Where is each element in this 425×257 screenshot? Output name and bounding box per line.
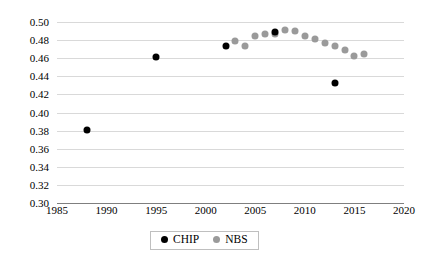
legend-item-chip[interactable]: CHIP [161, 234, 199, 246]
data-point-nbs [242, 43, 249, 50]
data-point-nbs [282, 27, 289, 34]
data-point-chip [331, 79, 338, 86]
gridline [57, 167, 404, 168]
data-point-nbs [301, 33, 308, 40]
y-tick-label: 0.46 [30, 53, 49, 64]
y-tick-label: 0.36 [30, 144, 49, 155]
x-tick-label: 2005 [244, 205, 266, 216]
data-point-nbs [311, 36, 318, 43]
data-point-nbs [351, 53, 358, 60]
gridline [57, 40, 404, 41]
data-point-chip [222, 42, 229, 49]
legend-marker-icon [213, 236, 220, 243]
scatter-chart: 0.300.320.340.360.380.400.420.440.460.48… [0, 0, 425, 257]
legend-label: CHIP [173, 234, 199, 246]
data-point-nbs [321, 39, 328, 46]
x-tick-label: 2010 [294, 205, 316, 216]
legend-item-nbs[interactable]: NBS [213, 234, 247, 246]
data-point-chip [153, 54, 160, 61]
y-tick-label: 0.32 [30, 180, 49, 191]
data-point-nbs [291, 28, 298, 35]
y-tick-label: 0.48 [30, 35, 49, 46]
y-tick-label: 0.34 [30, 162, 49, 173]
data-point-nbs [331, 42, 338, 49]
y-tick-label: 0.50 [30, 17, 49, 28]
x-tick-label: 1985 [46, 205, 68, 216]
x-axis-tick-labels: 19851990199520002005201020152020 [0, 205, 425, 223]
gridline [57, 185, 404, 186]
data-point-chip [83, 126, 90, 133]
gridline [57, 113, 404, 114]
y-tick-label: 0.40 [30, 108, 49, 119]
data-point-nbs [252, 32, 259, 39]
gridline [57, 76, 404, 77]
gridline [57, 149, 404, 150]
legend-marker-icon [161, 236, 168, 243]
data-point-nbs [361, 50, 368, 57]
chart-legend: CHIPNBS [150, 231, 259, 250]
y-axis-tick-labels: 0.300.320.340.360.380.400.420.440.460.48… [0, 22, 52, 203]
x-tick-label: 2015 [343, 205, 365, 216]
x-tick-label: 1990 [96, 205, 118, 216]
gridline [57, 131, 404, 132]
x-tick-label: 1995 [145, 205, 167, 216]
data-point-nbs [341, 47, 348, 54]
gridline [57, 94, 404, 95]
y-tick-label: 0.44 [30, 71, 49, 82]
data-point-nbs [232, 38, 239, 45]
legend-label: NBS [225, 234, 247, 246]
y-tick-label: 0.42 [30, 89, 49, 100]
data-point-nbs [262, 30, 269, 37]
x-tick-label: 2000 [195, 205, 217, 216]
gridline [57, 22, 404, 23]
y-tick-label: 0.38 [30, 126, 49, 137]
data-point-chip [272, 28, 279, 35]
plot-area [57, 22, 404, 203]
x-tick-label: 2020 [393, 205, 415, 216]
